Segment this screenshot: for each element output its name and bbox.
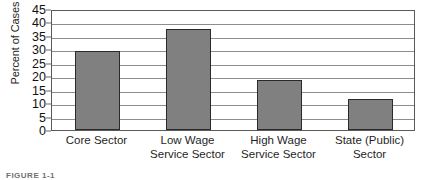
bar [348, 99, 394, 130]
x-category-label-line: High Wage [233, 134, 324, 148]
x-category-label: High WageService Sector [233, 134, 324, 161]
y-tick-label: 0 [39, 125, 46, 138]
y-tick-label: 20 [32, 71, 46, 84]
x-category-label-line: Low Wage [142, 134, 233, 148]
y-tick-label: 35 [32, 31, 46, 44]
x-category-label-line: Service Sector [233, 148, 324, 162]
y-tick-label: 5 [39, 111, 46, 124]
y-tick-label: 30 [32, 44, 46, 57]
y-tick-label: 40 [32, 17, 46, 30]
x-category-label-line: Core Sector [51, 134, 142, 148]
y-tick-label: 15 [32, 84, 46, 97]
figure-bar-chart: Percent of Cases 051015202530354045 Core… [0, 0, 430, 180]
x-category-label: Low WageService Sector [142, 134, 233, 161]
bar-series [52, 11, 414, 130]
y-tick-label: 25 [32, 58, 46, 71]
figure-caption: FIGURE 1-1 [6, 171, 55, 180]
y-axis-tick-labels: 051015202530354045 [22, 10, 46, 131]
x-axis-category-labels: Core SectorLow WageService SectorHigh Wa… [51, 134, 415, 164]
plot-area [51, 10, 415, 131]
x-category-label-line: State (Public) [324, 134, 415, 148]
bar [75, 51, 121, 130]
bar [166, 29, 212, 130]
x-category-label-line: Service Sector [142, 148, 233, 162]
x-category-label-line: Sector [324, 148, 415, 162]
bar [257, 80, 303, 130]
y-axis-title: Percent of Cases [9, 0, 21, 103]
x-category-label: State (Public)Sector [324, 134, 415, 161]
y-tick-label: 45 [32, 4, 46, 17]
y-tick-label: 10 [32, 98, 46, 111]
x-category-label: Core Sector [51, 134, 142, 148]
